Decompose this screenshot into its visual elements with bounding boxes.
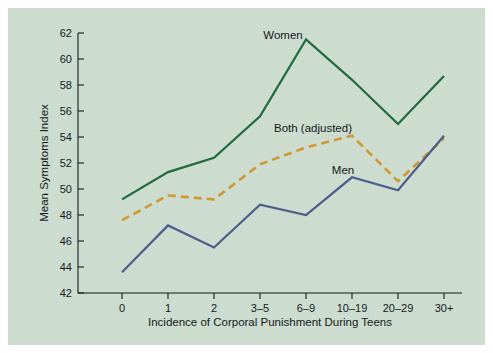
line-chart: 4244464850525456586062 0123–56–910–1920–… — [0, 0, 493, 353]
y-tick-label: 50 — [60, 183, 72, 195]
x-tick-label: 2 — [211, 302, 217, 314]
x-tick-label: 6–9 — [297, 302, 315, 314]
y-tick-label: 60 — [60, 53, 72, 65]
series-line-men — [122, 136, 444, 273]
y-axis-ticks — [78, 33, 84, 293]
y-tick-label: 56 — [60, 105, 72, 117]
y-tick-label: 52 — [60, 157, 72, 169]
x-tick-label: 10–19 — [337, 302, 368, 314]
axis-lines — [78, 33, 462, 293]
y-tick-label: 54 — [60, 131, 72, 143]
x-axis-ticks — [122, 293, 444, 299]
x-tick-label: 20–29 — [383, 302, 414, 314]
series-label-both-adjusted: Both (adjusted) — [274, 122, 352, 134]
y-axis-title: Mean Symptoms Index — [38, 104, 50, 222]
series-label-women: Women — [263, 29, 302, 41]
x-tick-label: 1 — [165, 302, 171, 314]
series-line-both-adjusted — [122, 136, 444, 221]
x-tick-label: 30+ — [435, 302, 454, 314]
y-tick-label: 42 — [60, 287, 72, 299]
x-tick-label: 3–5 — [251, 302, 269, 314]
y-tick-label: 58 — [60, 79, 72, 91]
series-line-women — [122, 40, 444, 200]
x-tick-label: 0 — [119, 302, 125, 314]
chart-figure: 4244464850525456586062 0123–56–910–1920–… — [0, 0, 493, 353]
series-annotations: WomenBoth (adjusted)Men — [263, 29, 354, 176]
x-axis-tick-labels: 0123–56–910–1920–2930+ — [119, 302, 453, 314]
y-tick-label: 46 — [60, 235, 72, 247]
data-series-group — [122, 40, 444, 273]
series-label-men: Men — [332, 164, 354, 176]
y-axis-tick-labels: 4244464850525456586062 — [60, 27, 72, 299]
y-tick-label: 62 — [60, 27, 72, 39]
y-tick-label: 44 — [60, 261, 72, 273]
y-tick-label: 48 — [60, 209, 72, 221]
x-axis-title: Incidence of Corporal Punishment During … — [148, 316, 392, 328]
